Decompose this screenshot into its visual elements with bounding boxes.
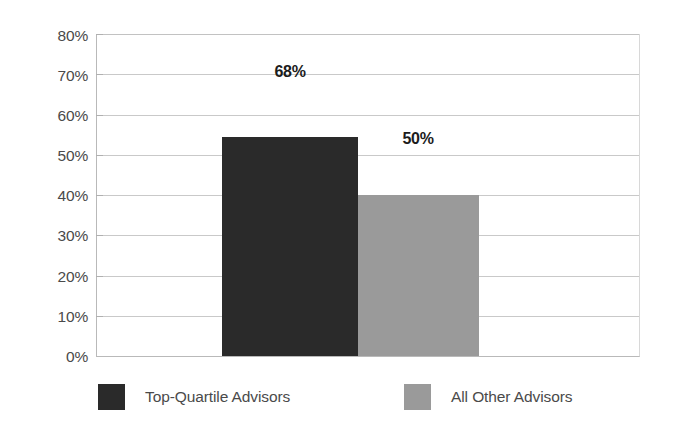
gridline-80 bbox=[97, 34, 639, 35]
bar-top-quartile-advisors bbox=[222, 137, 358, 356]
legend-item-top-quartile-advisors: Top-Quartile Advisors bbox=[98, 383, 290, 411]
y-tick-mark-50 bbox=[96, 155, 103, 156]
y-tick-mark-20 bbox=[96, 276, 103, 277]
legend-item-all-other-advisors: All Other Advisors bbox=[404, 383, 572, 411]
gridline-70 bbox=[97, 74, 639, 75]
legend-swatch-icon-all-other-advisors bbox=[404, 384, 431, 410]
y-tick-label-80: 80% bbox=[26, 27, 88, 45]
y-tick-label-20: 20% bbox=[26, 268, 88, 286]
y-tick-mark-80 bbox=[96, 34, 103, 35]
bar-all-other-advisors bbox=[358, 195, 479, 356]
gridline-50 bbox=[97, 155, 639, 156]
legend-swatch-icon-top-quartile-advisors bbox=[98, 384, 125, 410]
y-tick-mark-10 bbox=[96, 316, 103, 317]
y-tick-mark-40 bbox=[96, 195, 103, 196]
value-label-top-quartile-advisors: 68% bbox=[274, 63, 305, 81]
y-tick-label-50: 50% bbox=[26, 147, 88, 165]
legend: Top-Quartile Advisors All Other Advisors bbox=[0, 383, 674, 423]
gridline-60 bbox=[97, 115, 639, 116]
y-tick-label-30: 30% bbox=[26, 227, 88, 245]
y-tick-label-10: 10% bbox=[26, 308, 88, 326]
plot-area bbox=[96, 34, 640, 357]
y-tick-label-0: 0% bbox=[26, 348, 88, 366]
y-tick-label-60: 60% bbox=[26, 107, 88, 125]
legend-label-all-other-advisors: All Other Advisors bbox=[451, 388, 572, 406]
bar-chart: 80% 70% 60% 50% 40% 30% 20% 10% 0% 68% 5… bbox=[0, 0, 674, 447]
y-tick-label-70: 70% bbox=[26, 67, 88, 85]
y-tick-label-40: 40% bbox=[26, 187, 88, 205]
y-tick-mark-70 bbox=[96, 74, 103, 75]
y-axis: 80% 70% 60% 50% 40% 30% 20% 10% 0% bbox=[18, 0, 88, 447]
y-tick-mark-60 bbox=[96, 115, 103, 116]
legend-label-top-quartile-advisors: Top-Quartile Advisors bbox=[145, 388, 290, 406]
value-label-all-other-advisors: 50% bbox=[402, 130, 433, 148]
y-tick-mark-30 bbox=[96, 235, 103, 236]
